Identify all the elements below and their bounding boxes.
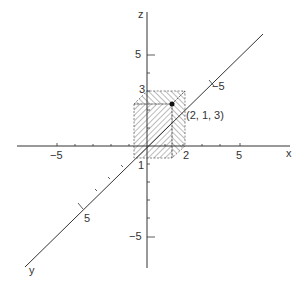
y-tick-neg5: −5: [212, 81, 225, 92]
point-marker: [170, 102, 175, 107]
x-axis-label: x: [286, 148, 292, 159]
z-axis-label: z: [138, 9, 144, 20]
point-label: (2, 1, 3): [186, 110, 224, 121]
y-axis-label: y: [29, 265, 35, 276]
box: [134, 91, 185, 158]
z-tick-3: 3: [139, 84, 145, 95]
x-tick-neg5: −5: [50, 150, 63, 161]
x-tick-pos5: 5: [236, 150, 242, 161]
z-tick-neg5: −5: [129, 231, 142, 242]
coordinate-diagram: [0, 0, 307, 289]
y-tick-1: 1: [138, 160, 144, 171]
x-tick-2: 2: [183, 150, 189, 161]
y-tick-pos5: 5: [84, 213, 90, 224]
z-tick-pos5: 5: [135, 49, 141, 60]
